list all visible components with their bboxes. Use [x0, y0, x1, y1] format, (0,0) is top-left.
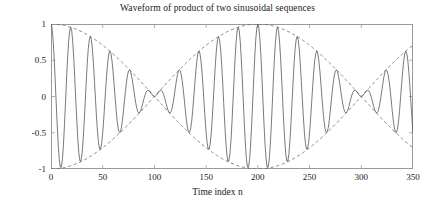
x-tick-label: 300 — [355, 172, 369, 182]
plot-area — [51, 24, 413, 169]
x-axis-label: Time index n — [0, 187, 435, 197]
x-tick-label: 200 — [251, 172, 265, 182]
x-tick-label: 50 — [98, 172, 107, 182]
y-tick-label: 0 — [42, 92, 47, 102]
y-tick-label: 0.5 — [35, 55, 46, 65]
x-tick-label: 250 — [303, 172, 317, 182]
y-tick-label: -1 — [39, 164, 47, 174]
x-tick-label: 0 — [49, 172, 54, 182]
y-tick-label: -0.5 — [32, 128, 46, 138]
x-tick-label: 350 — [406, 172, 420, 182]
y-tick-label: 1 — [42, 19, 47, 29]
plot-svg — [51, 24, 413, 169]
figure: Waveform of product of two sinusoidal se… — [0, 0, 435, 210]
chart-title: Waveform of product of two sinusoidal se… — [0, 3, 435, 13]
x-tick-label: 100 — [148, 172, 162, 182]
x-tick-label: 150 — [199, 172, 213, 182]
